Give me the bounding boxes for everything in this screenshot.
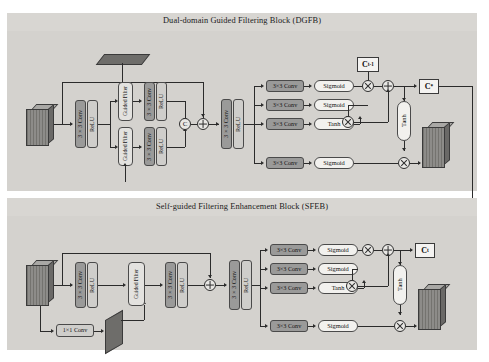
wire-sfeb-g3-up-h (358, 288, 364, 289)
dgfb-stage1-conv: 3×3 Conv (75, 100, 86, 148)
dgfb-stage2-relu: ReLU (233, 99, 244, 149)
wire-stage2-bus (244, 124, 254, 125)
arrow-sfeb-conv-plane (101, 329, 104, 333)
arrow-sfeb-mulin-add (386, 253, 390, 256)
arrow-sfeb-guide (51, 329, 54, 333)
dgfb-gate4-act: Sigmoid (314, 157, 354, 169)
arrow-sfeb-g3 (265, 286, 268, 290)
arrow-sfeb-g3-mul (362, 280, 366, 283)
wire-cellin-mul (368, 72, 369, 80)
wire-skip-up (62, 82, 63, 124)
arrow-gate1 (261, 84, 264, 88)
wire-skip-down (203, 82, 204, 118)
arrow-sfeb-skip-add (208, 275, 212, 278)
wire-split-v (110, 101, 111, 147)
dgfb-branch-bottom-relu: ReLU (156, 127, 167, 166)
dgfb-gate4-conv: 3×3 Conv (266, 157, 304, 169)
wire-plane-gf-h (121, 320, 144, 321)
wire-add-cstar (394, 86, 416, 87)
arrow-mulin-add (386, 89, 390, 92)
arrow-sfeb-add-stage3 (224, 283, 227, 287)
arrow-gate3 (261, 122, 264, 126)
sfeb-cell-out-label: Ct (415, 243, 435, 258)
arrow-sfeb-stage1-gf (123, 283, 126, 287)
wire-mul-add (374, 86, 382, 87)
wire-sfeb-skip-up (62, 253, 63, 285)
arrow-gate2 (261, 103, 264, 107)
wire-top-to-concat-h (167, 101, 185, 102)
cell-in-sub: t-1 (368, 62, 374, 67)
arrow-sfeb-in-stage1 (70, 283, 73, 287)
arrow-sfeb-g1 (265, 248, 268, 252)
dgfb-guide-plane (96, 54, 151, 65)
sfeb-stage2-relu: ReLU (177, 262, 188, 308)
arrow-sfeb-g4-act (313, 324, 316, 328)
dgfb-guided-filter-bottom: Guided Filter (118, 127, 133, 166)
dgfb-input-cube (26, 104, 54, 146)
wire-sfeb-mulin-add-v (388, 256, 389, 286)
arrow-sfeb-g2-act (313, 267, 316, 271)
dgfb-cell-out-label: C* (419, 79, 439, 94)
arrow-add-cstar (414, 84, 417, 88)
arrow-sfeb-g4 (265, 324, 268, 328)
wire-sfeb-stage2-add (188, 285, 204, 286)
wire-recurrent-down (472, 86, 473, 199)
wire-mulin-add-v (388, 92, 389, 122)
arrow-skip-into-add (201, 114, 205, 117)
dgfb-mul-forget (362, 80, 374, 92)
dgfb-mul-output (398, 157, 410, 169)
wire-skip-top (62, 82, 204, 83)
dgfb-tanh: Tanh (397, 101, 411, 141)
arrow-in-stage1 (70, 122, 73, 126)
arrow-mulout-cube (418, 161, 421, 165)
arrow-sfeb-gf-stage2 (160, 283, 163, 287)
wire-sfeb-g4-mul (358, 326, 394, 327)
wire-gate1-mul (354, 86, 362, 87)
dgfb-gate1-conv: 3×3 Conv (266, 80, 304, 92)
wire-stage1-split (98, 124, 110, 125)
sfeb-guided-filter: Guided Filter (128, 262, 145, 306)
sfeb-gate4-act: Sigmoid (318, 320, 358, 332)
arrow-gate4-act (309, 161, 312, 165)
sfeb-gate1-act: Sigmoid (318, 244, 358, 256)
sfeb-stage1-relu: ReLU (87, 262, 98, 308)
wire-guide-bottom (125, 166, 126, 182)
arrow-gate4 (261, 161, 264, 165)
arrow-gate1-act (309, 84, 312, 88)
wire-recurrent-top (439, 86, 472, 87)
sfeb-output-cube (418, 284, 446, 330)
arrow-gate3-mul (358, 116, 362, 119)
dgfb-mul-input (342, 116, 354, 128)
wire-gate2-down-h (354, 105, 368, 106)
sfeb-tanh: Tanh (393, 265, 407, 305)
sfeb-guide-conv: 1×1 Conv (56, 324, 94, 337)
dgfb-gate3-conv: 3×3 Conv (266, 118, 304, 130)
sfeb-gate1-conv: 3×3 Conv (270, 244, 308, 256)
sfeb-gate4-conv: 3×3 Conv (270, 320, 308, 332)
wire-plane-gf-v (144, 305, 145, 320)
arrow-sfeb-g1-act (313, 248, 316, 252)
figure-canvas: Dual-domain Guided Filtering Block (DGFB… (0, 0, 489, 362)
arrow-guide-bottom (123, 163, 127, 166)
sfeb-gate2-conv: 3×3 Conv (270, 263, 308, 275)
wire-guide-down (122, 63, 123, 82)
wire-sfeb-g2-dn-h (352, 269, 358, 270)
dgfb-gate2-conv: 3×3 Conv (266, 99, 304, 111)
dgfb-cell-in-label: Ct-1 (357, 57, 379, 72)
wire-sfeb-skip-top (62, 253, 210, 254)
arrow-sfeb-g2 (265, 267, 268, 271)
dgfb-title: Dual-domain Guided Filtering Block (DGFB… (7, 16, 477, 25)
wire-sfeb-mul-add (374, 250, 382, 251)
wire-bot-to-concat-h (167, 147, 185, 148)
dgfb-concat-op: C (179, 118, 191, 130)
sfeb-mul-output (394, 320, 406, 332)
dgfb-branch-top-relu: ReLU (156, 82, 167, 121)
wire-bot-to-concat-v (185, 131, 186, 147)
dgfb-branch-top-conv: 3×3 Conv (144, 82, 155, 121)
wire-sfeb-mulin-add-h (358, 286, 388, 287)
cell-out-sup: * (431, 84, 434, 89)
arrow-tanh-mulout (402, 148, 406, 151)
arrow-sfeb-g3-act (313, 286, 316, 290)
dgfb-output-cube (422, 122, 450, 168)
sfeb-mul-forget (362, 244, 374, 256)
